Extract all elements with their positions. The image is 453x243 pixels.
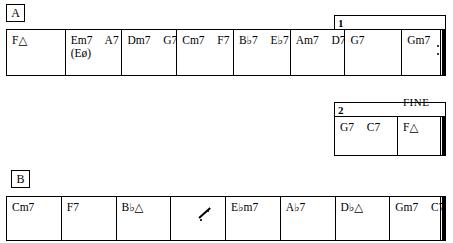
measure[interactable]: F△ xyxy=(398,117,445,155)
measure[interactable]: Gm7 C7 xyxy=(390,197,445,240)
measure[interactable]: Gm7 C7 xyxy=(402,30,445,75)
staff-section-b: Cm7 F7 B♭△ E♭m7 A♭7 D♭△ Gm7 C7 xyxy=(6,196,446,241)
chord-symbol: B♭△ xyxy=(122,201,144,213)
chord-symbol: F7 xyxy=(67,201,79,213)
chord-symbol: F△ xyxy=(12,34,27,46)
staff-second-ending: G7 C7 F△ xyxy=(334,116,446,156)
chord-symbol: E♭m7 xyxy=(231,201,258,213)
chord-symbol: F△ xyxy=(403,121,418,133)
second-ending-number: 2 xyxy=(338,105,344,116)
second-ending-bracket: 2 xyxy=(334,102,446,116)
chord-symbol: Gm7 xyxy=(407,34,430,46)
chord-symbol: D♭△ xyxy=(341,201,364,213)
chord-alternate-label: (Eø) xyxy=(71,47,122,60)
measure[interactable]: Cm7 xyxy=(7,197,62,240)
chord-symbol: B♭7 xyxy=(239,34,258,46)
chord-symbol: C7 xyxy=(367,121,380,133)
chord-symbol: Em7 xyxy=(71,34,93,46)
measure[interactable]: B♭7 E♭7 xyxy=(234,30,291,75)
measure[interactable]: B♭△ xyxy=(117,197,172,240)
measure[interactable]: Am7 D7 xyxy=(291,30,346,75)
chord-symbol: D7 xyxy=(331,34,345,46)
chord-symbol: Cm7 xyxy=(182,34,204,46)
measure[interactable]: D♭△ xyxy=(336,197,391,240)
measure[interactable]: Em7 A7 (Eø) xyxy=(66,30,123,75)
measure-repeat[interactable] xyxy=(171,197,226,240)
measure[interactable]: Dm7 G7 xyxy=(122,30,177,75)
chord-symbol: Am7 xyxy=(296,34,319,46)
final-barline-icon xyxy=(439,117,445,155)
rehearsal-mark-b: B xyxy=(11,170,30,188)
chord-symbol: A♭7 xyxy=(286,201,305,213)
chord-symbol: G7 xyxy=(340,121,354,133)
chord-symbol: Gm7 xyxy=(395,201,418,213)
final-barline-icon xyxy=(439,197,445,240)
end-repeat-barline-icon xyxy=(436,30,445,75)
chord-symbol: G7 xyxy=(163,34,177,46)
measure[interactable]: A♭7 xyxy=(281,197,336,240)
chord-symbol: A7 xyxy=(105,34,119,46)
measure[interactable]: E♭m7 xyxy=(226,197,281,240)
chord-symbol: Dm7 xyxy=(127,34,150,46)
chord-symbol: E♭7 xyxy=(271,34,289,46)
staff-section-a: F△ Em7 A7 (Eø) Dm7 G7 Cm7 F7 B♭7 E♭7 Am7… xyxy=(6,29,446,76)
measure[interactable]: G7 C7 xyxy=(335,117,398,155)
measure[interactable]: Cm7 F7 xyxy=(177,30,234,75)
chord-symbol: Cm7 xyxy=(12,201,34,213)
first-ending-bracket: 1 xyxy=(334,15,446,29)
chord-symbol: F7 xyxy=(217,34,229,46)
measure[interactable]: F7 xyxy=(62,197,117,240)
first-ending-number: 1 xyxy=(338,18,344,29)
chord-symbol: G7 xyxy=(350,34,364,46)
rehearsal-mark-a: A xyxy=(6,4,25,22)
measure[interactable]: F△ xyxy=(7,30,66,75)
measure[interactable]: G7 xyxy=(345,30,402,75)
